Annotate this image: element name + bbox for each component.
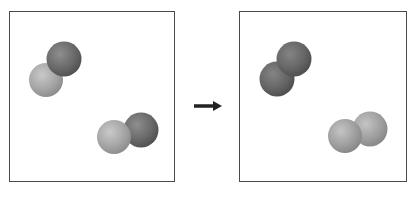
dark-atom-icon [47,42,82,77]
dark-atom-icon [277,42,312,77]
light-atom-icon [97,120,131,154]
product-molecule-1 [260,42,312,97]
reactant-molecule-1 [29,42,82,98]
right-arrow-icon [194,101,222,111]
diagram-canvas [0,0,410,197]
product-molecule-2 [328,112,388,154]
light-atom-icon [328,119,362,153]
reactant-molecule-2 [97,113,159,155]
